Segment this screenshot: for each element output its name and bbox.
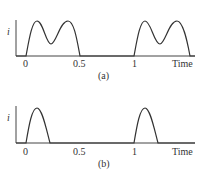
panel-a-tick-0: 0 xyxy=(23,59,28,69)
panel-b-ylabel: i xyxy=(7,113,10,123)
panel-a-tick-1: 1 xyxy=(132,59,137,69)
panel-b-waveform xyxy=(16,108,195,143)
panel-a-xlabel: Time xyxy=(172,59,193,69)
panel-b-tick-0: 0 xyxy=(23,147,28,157)
panel-b-tick-0-5: 0.5 xyxy=(73,147,86,157)
panel-a-ylabel: i xyxy=(7,27,10,37)
panel-a-waveform xyxy=(16,21,195,56)
panel-a-tick-0-5: 0.5 xyxy=(73,59,86,69)
panel-a-caption: (a) xyxy=(98,71,109,81)
panel-b-axes xyxy=(16,106,195,143)
panel-b-caption: (b) xyxy=(98,159,110,169)
panel-b-xlabel: Time xyxy=(172,147,193,157)
panel-a-axes xyxy=(16,20,195,56)
panel-b-tick-1: 1 xyxy=(132,147,137,157)
